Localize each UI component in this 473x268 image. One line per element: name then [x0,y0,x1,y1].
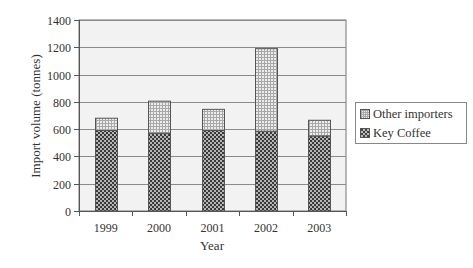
x-tick-label: 2003 [307,221,331,235]
legend: Other importers Key Coffee [355,102,467,144]
x-tick-label: 2000 [147,221,171,235]
bar-other-importers-2002 [256,49,278,132]
bar-other-importers-1999 [96,118,118,130]
bar-other-importers-2000 [149,101,171,133]
y-tick-label: 600 [53,123,71,137]
x-tick-label: 2002 [254,221,278,235]
other-importers-swatch-icon [360,109,370,119]
legend-label: Key Coffee [373,126,431,141]
plot-area [79,20,346,211]
y-tick-label: 1400 [47,14,71,28]
y-axis-title: Import volume (tonnes) [28,54,43,177]
bar-key-coffee-1999 [96,131,118,211]
x-axis-title: Year [200,238,225,253]
y-tick-label: 1000 [47,69,71,83]
x-tick-label: 1999 [94,221,118,235]
x-tick-label: 2001 [201,221,225,235]
bar-key-coffee-2003 [309,136,331,211]
bar-other-importers-2003 [309,120,331,136]
bar-other-importers-2001 [203,109,225,130]
y-tick-label: 800 [53,96,71,110]
key-coffee-swatch-icon [360,128,370,138]
legend-item-key-coffee: Key Coffee [360,125,431,141]
legend-item-other-importers: Other importers [360,106,453,122]
y-tick-label: 1200 [47,41,71,55]
y-tick-label: 400 [53,150,71,164]
bar-key-coffee-2001 [203,131,225,211]
bar-key-coffee-2002 [256,131,278,211]
bar-key-coffee-2000 [149,133,171,211]
y-tick-label: 0 [65,205,71,219]
y-tick-label: 200 [53,178,71,192]
legend-label: Other importers [373,107,453,122]
